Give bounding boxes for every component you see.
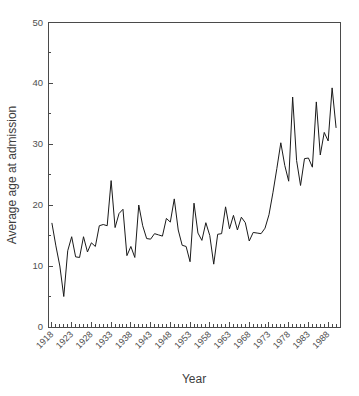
plot-frame [48, 22, 340, 327]
x-tick-label: 1983 [291, 329, 312, 350]
x-axis-tick-labels: 1918192319281933193819431948195319581963… [34, 329, 331, 350]
chart-figure: 0 10 20 30 40 50 19181923192819331938194… [0, 0, 359, 396]
x-axis-ticks [48, 322, 340, 327]
y-tick-label: 50 [32, 17, 43, 28]
y-tick-label: 10 [32, 260, 43, 271]
series-line-average-age [52, 88, 336, 297]
y-axis-ticks [48, 22, 53, 327]
x-tick-label: 1988 [310, 329, 331, 350]
y-tick-label: 40 [32, 77, 43, 88]
y-tick-label: 30 [32, 138, 43, 149]
x-axis-title: Year [182, 372, 206, 386]
x-tick-label: 1948 [152, 329, 173, 350]
x-tick-label: 1953 [172, 329, 193, 350]
x-tick-label: 1968 [231, 329, 252, 350]
x-tick-label: 1928 [74, 329, 95, 350]
x-tick-label: 1963 [212, 329, 233, 350]
x-tick-label: 1973 [251, 329, 272, 350]
x-tick-label: 1933 [93, 329, 114, 350]
x-tick-label: 1938 [113, 329, 134, 350]
y-axis-tick-labels: 0 10 20 30 40 50 [32, 17, 43, 332]
x-tick-label: 1958 [192, 329, 213, 350]
y-axis-title: Average age at admission [5, 106, 19, 245]
x-tick-label: 1943 [133, 329, 154, 350]
y-tick-label: 20 [32, 199, 43, 210]
x-tick-label: 1923 [54, 329, 75, 350]
x-tick-label: 1918 [34, 329, 55, 350]
x-tick-label: 1978 [271, 329, 292, 350]
y-tick-label: 0 [38, 321, 43, 332]
line-chart: 0 10 20 30 40 50 19181923192819331938194… [0, 0, 359, 396]
